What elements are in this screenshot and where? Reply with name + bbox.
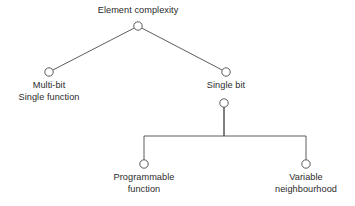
node-label-variable-neighbourhood-line-2: neighbourhood bbox=[275, 184, 337, 196]
node-label-variable-neighbourhood-line-1: Variable bbox=[275, 172, 337, 184]
node-label-programmable-function-line-2: function bbox=[114, 184, 175, 196]
node-variable-neighbourhood[interactable] bbox=[299, 157, 313, 171]
edge-split-to-variable-neighbourhood bbox=[224, 107, 306, 160]
node-label-programmable-function-line-1: Programmable bbox=[114, 172, 175, 184]
node-label-root-line-1: Element complexity bbox=[98, 5, 179, 17]
edge-group bbox=[53, 28, 306, 160]
node-label-multi-bit: Multi-bit Single function bbox=[18, 80, 79, 103]
node-single-bit-split[interactable] bbox=[217, 96, 231, 110]
node-label-single-bit-line-1: Single bit bbox=[207, 80, 245, 92]
node-multi-bit[interactable] bbox=[42, 65, 56, 79]
node-label-multi-bit-line-1: Multi-bit bbox=[18, 80, 79, 92]
node-root[interactable] bbox=[131, 19, 145, 33]
edge-split-to-programmable-function bbox=[144, 107, 224, 160]
node-programmable-function[interactable] bbox=[137, 157, 151, 171]
edge-root-to-multi-bit bbox=[53, 28, 134, 70]
node-label-variable-neighbourhood: Variable neighbourhood bbox=[275, 172, 337, 195]
node-label-single-bit: Single bit bbox=[207, 80, 245, 92]
node-single-bit[interactable] bbox=[219, 65, 233, 79]
node-label-root: Element complexity bbox=[98, 5, 179, 17]
tree-diagram: Element complexity Multi-bit Single func… bbox=[0, 0, 355, 206]
node-label-multi-bit-line-2: Single function bbox=[18, 92, 79, 104]
node-label-programmable-function: Programmable function bbox=[114, 172, 175, 195]
node-circle-group bbox=[45, 22, 310, 168]
edge-root-to-single-bit bbox=[142, 28, 222, 70]
